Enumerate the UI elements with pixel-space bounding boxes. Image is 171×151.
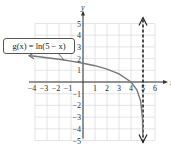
svg-text:−4: −4 — [72, 125, 81, 134]
svg-text:−3: −3 — [72, 113, 81, 122]
svg-text:1: 1 — [93, 84, 97, 93]
svg-text:6: 6 — [153, 84, 157, 93]
svg-text:−3: −3 — [40, 84, 49, 93]
function-curve — [29, 56, 143, 136]
function-label-callout: g(x) = ln(5 − x) — [3, 38, 75, 54]
svg-text:−1: −1 — [64, 84, 73, 93]
svg-text:3: 3 — [77, 43, 81, 52]
svg-text:5: 5 — [77, 20, 81, 29]
svg-text:3: 3 — [117, 84, 121, 93]
svg-text:4: 4 — [129, 84, 133, 93]
function-graph: −4−3−2−1123456−5−4−3−2−112345 x y — [0, 0, 171, 151]
svg-text:2: 2 — [105, 84, 109, 93]
svg-text:−2: −2 — [72, 101, 81, 110]
svg-text:4: 4 — [77, 31, 81, 40]
y-axis-label: y — [80, 3, 85, 12]
svg-text:−4: −4 — [28, 84, 37, 93]
svg-text:1: 1 — [77, 66, 81, 75]
axes — [29, 11, 168, 139]
svg-text:−1: −1 — [72, 90, 81, 99]
svg-text:−2: −2 — [52, 84, 61, 93]
svg-text:−5: −5 — [72, 137, 81, 146]
function-label-text: g(x) = ln(5 − x) — [12, 41, 65, 51]
x-axis-label: x — [169, 78, 171, 87]
